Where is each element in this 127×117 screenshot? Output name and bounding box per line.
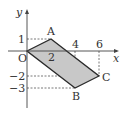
y-axis-arrow-icon [25,9,29,14]
x-tick-6: 6 [96,38,103,51]
y-axis-label: y [15,6,23,19]
vertex-label-A: A [46,25,56,38]
vertex-label-B: B [72,90,80,103]
parallelogram-OACB [27,39,99,88]
vertex-label-C: C [102,71,110,84]
x-tick-4: 4 [72,38,79,51]
y-tick-1: 1 [18,33,25,46]
origin-label: O [18,52,27,65]
x-tick-2: 2 [48,51,55,64]
coordinate-diagram: x y O 2 4 6 1 −2 −3 A B C [0,0,127,117]
x-axis-label: x [113,52,120,65]
y-tick-neg3: −3 [9,82,25,95]
